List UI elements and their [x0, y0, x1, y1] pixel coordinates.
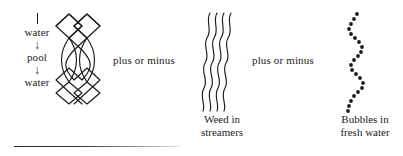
vertical-tick-icon	[37, 13, 38, 24]
caption-weed-line-2: streamers	[190, 126, 254, 139]
braided-lattice-icon	[52, 12, 104, 107]
down-arrow-icon-1: ↓	[34, 39, 40, 51]
connector-label-2: plus or minus	[252, 54, 314, 66]
diagram-figure: water ↓ pool ↓ water plus or minus	[0, 0, 403, 156]
wavy-streamers-icon	[198, 12, 246, 112]
caption-bubbles-line-1: Bubbles in	[330, 113, 400, 126]
legend-label-pool: pool	[27, 52, 47, 63]
horizontal-rule	[14, 146, 180, 147]
dotted-wave-icon	[337, 12, 383, 112]
caption-bubbles-line-2: fresh water	[330, 126, 400, 139]
legend-label-water-bottom: water	[25, 77, 50, 88]
caption-weed-line-1: Weed in	[190, 113, 254, 126]
legend-label-water-top: water	[25, 27, 50, 38]
down-arrow-icon-2: ↓	[34, 64, 40, 76]
caption-bubbles: Bubbles in fresh water	[330, 113, 400, 138]
caption-weed: Weed in streamers	[190, 113, 254, 138]
connector-label-1: plus or minus	[113, 54, 175, 66]
